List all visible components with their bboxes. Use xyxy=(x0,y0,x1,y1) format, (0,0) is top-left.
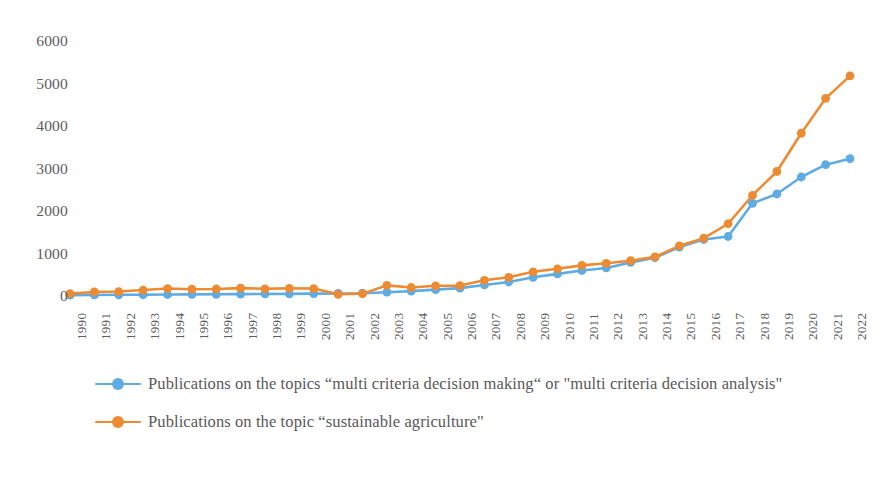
x-axis-tick-label: 1999 xyxy=(294,313,307,340)
data-point-marker[interactable] xyxy=(529,267,538,276)
data-point-marker[interactable] xyxy=(504,273,513,282)
x-axis-tick-label: 2004 xyxy=(416,313,429,340)
x-axis-tick-label: 2010 xyxy=(563,313,576,340)
x-axis-tick-label: 2007 xyxy=(489,313,502,340)
data-point-marker[interactable] xyxy=(212,285,221,294)
data-point-marker[interactable] xyxy=(797,129,806,138)
data-point-marker[interactable] xyxy=(456,281,465,290)
x-axis-tick-label: 2017 xyxy=(733,313,746,340)
legend-item[interactable]: Publications on the topics “multi criter… xyxy=(0,365,892,403)
x-axis-tick-label: 2005 xyxy=(441,313,454,340)
series-line xyxy=(70,76,850,294)
x-axis-tick-label: 2006 xyxy=(465,313,478,340)
x-axis-tick-label: 2003 xyxy=(392,313,405,340)
x-axis-tick-label: 2008 xyxy=(514,313,527,340)
data-point-marker[interactable] xyxy=(285,284,294,293)
x-axis-tick-label: 1994 xyxy=(173,313,186,340)
legend-item-label: Publications on the topic “sustainable a… xyxy=(148,413,484,431)
x-axis-tick-label: 1997 xyxy=(246,313,259,340)
data-point-marker[interactable] xyxy=(651,253,660,262)
data-point-marker[interactable] xyxy=(187,285,196,294)
x-axis-tick-label: 1990 xyxy=(75,313,88,340)
x-axis-tick-label: 2019 xyxy=(782,313,795,340)
x-axis-tick-label: 1993 xyxy=(148,313,161,340)
y-axis-tick-label: 3000 xyxy=(6,161,68,177)
data-point-marker[interactable] xyxy=(846,154,855,163)
x-axis-tick-label: 1995 xyxy=(197,313,210,340)
x-axis-tick-label: 2022 xyxy=(855,313,868,340)
data-point-marker[interactable] xyxy=(772,190,781,199)
x-axis-tick-label: 2015 xyxy=(684,313,697,340)
y-axis-tick-label: 1000 xyxy=(6,246,68,262)
legend-marker-icon xyxy=(112,378,124,390)
y-axis-ticks: 0100020003000400050006000 xyxy=(0,0,68,320)
data-point-marker[interactable] xyxy=(236,284,245,293)
data-point-marker[interactable] xyxy=(675,241,684,250)
plot-area: 0100020003000400050006000 19901991199219… xyxy=(0,0,892,360)
x-axis-ticks: 1990199119921993199419951996199719981999… xyxy=(0,300,892,362)
data-point-marker[interactable] xyxy=(772,167,781,176)
data-point-marker[interactable] xyxy=(407,283,416,292)
data-point-marker[interactable] xyxy=(724,232,733,241)
x-axis-tick-label: 1996 xyxy=(221,313,234,340)
data-point-marker[interactable] xyxy=(139,286,148,295)
y-axis-tick-label: 2000 xyxy=(6,203,68,219)
legend-item[interactable]: Publications on the topic “sustainable a… xyxy=(0,403,892,441)
x-axis-tick-label: 2018 xyxy=(758,313,771,340)
data-point-marker[interactable] xyxy=(358,289,367,298)
x-axis-tick-label: 1991 xyxy=(99,313,112,340)
data-point-marker[interactable] xyxy=(821,94,830,103)
data-point-marker[interactable] xyxy=(309,284,318,293)
x-axis-tick-label: 2020 xyxy=(806,313,819,340)
publications-trend-chart: 0100020003000400050006000 19901991199219… xyxy=(0,0,892,479)
data-point-marker[interactable] xyxy=(846,71,855,80)
data-point-marker[interactable] xyxy=(748,191,757,200)
data-point-marker[interactable] xyxy=(724,219,733,228)
data-point-marker[interactable] xyxy=(334,290,343,299)
data-point-marker[interactable] xyxy=(163,284,172,293)
x-axis-tick-label: 1998 xyxy=(270,313,283,340)
legend-item-label: Publications on the topics “multi criter… xyxy=(148,375,782,393)
data-point-marker[interactable] xyxy=(797,173,806,182)
y-axis-tick-label: 5000 xyxy=(6,76,68,92)
x-axis-tick-label: 2016 xyxy=(709,313,722,340)
data-point-marker[interactable] xyxy=(699,234,708,243)
series-line xyxy=(70,159,850,295)
data-point-marker[interactable] xyxy=(821,160,830,169)
legend-marker-icon xyxy=(112,416,124,428)
x-axis-tick-label: 2001 xyxy=(343,313,356,340)
x-axis-tick-label: 2021 xyxy=(831,313,844,340)
y-axis-tick-label: 4000 xyxy=(6,118,68,134)
data-point-marker[interactable] xyxy=(382,281,391,290)
x-axis-tick-label: 1992 xyxy=(124,313,137,340)
x-axis-tick-label: 2012 xyxy=(611,313,624,340)
x-axis-tick-label: 2000 xyxy=(319,313,332,340)
data-point-marker[interactable] xyxy=(114,287,123,296)
legend-key-swatch-1 xyxy=(95,415,141,429)
data-point-marker[interactable] xyxy=(90,288,99,297)
data-point-marker[interactable] xyxy=(431,281,440,290)
data-point-marker[interactable] xyxy=(626,256,635,265)
data-point-marker[interactable] xyxy=(480,276,489,285)
data-point-marker[interactable] xyxy=(602,259,611,268)
x-axis-tick-label: 2011 xyxy=(587,313,600,340)
x-axis-tick-label: 2014 xyxy=(660,313,673,340)
chart-legend: Publications on the topics “multi criter… xyxy=(0,365,892,441)
data-point-marker[interactable] xyxy=(577,261,586,270)
x-axis-tick-label: 2013 xyxy=(636,313,649,340)
legend-key-swatch-0 xyxy=(95,377,141,391)
y-axis-tick-label: 6000 xyxy=(6,33,68,49)
x-axis-tick-label: 2002 xyxy=(368,313,381,340)
data-point-marker[interactable] xyxy=(748,199,757,208)
x-axis-tick-label: 2009 xyxy=(538,313,551,340)
data-point-marker[interactable] xyxy=(261,284,270,293)
data-point-marker[interactable] xyxy=(553,264,562,273)
